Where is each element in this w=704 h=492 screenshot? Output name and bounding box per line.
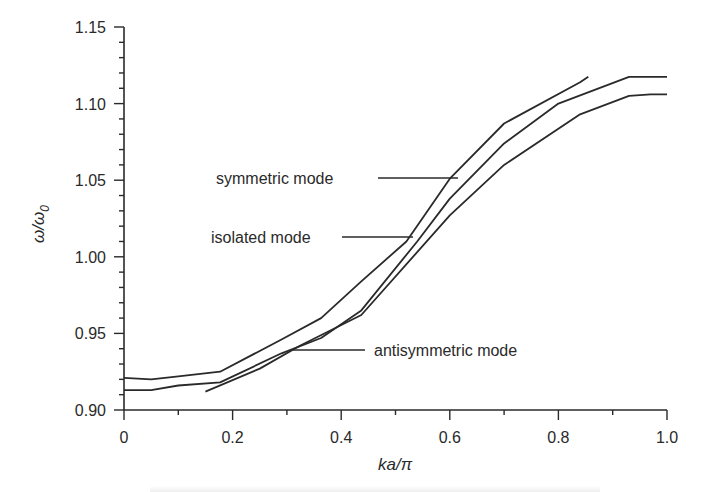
y-tick-label: 0.95 bbox=[75, 325, 106, 342]
y-tick-label: 1.05 bbox=[75, 172, 106, 189]
x-tick-label: 0.8 bbox=[547, 429, 569, 446]
x-tick-label: 0 bbox=[120, 429, 129, 446]
x-tick-label: 0.6 bbox=[439, 429, 461, 446]
y-tick-label: 1.10 bbox=[75, 96, 106, 113]
isolated-mode-label: isolated mode bbox=[211, 229, 311, 246]
y-tick-label: 1.00 bbox=[75, 249, 106, 266]
x-tick-label: 0.4 bbox=[330, 429, 352, 446]
symmetric-mode-label: symmetric mode bbox=[216, 170, 333, 187]
y-tick-label: 0.90 bbox=[75, 402, 106, 419]
x-axis-title: ka/π bbox=[378, 455, 413, 474]
symmetric-mode-curve bbox=[124, 77, 588, 380]
x-tick-label: 1.0 bbox=[656, 429, 678, 446]
axes: 0.900.951.001.051.101.1500.20.40.60.81.0 bbox=[75, 19, 678, 446]
annotations: symmetric modeisolated modeantisymmetric… bbox=[211, 170, 517, 359]
dispersion-chart: 0.900.951.001.051.101.1500.20.40.60.81.0… bbox=[0, 0, 704, 492]
x-tick-label: 0.2 bbox=[221, 429, 243, 446]
y-axis-title: ω/ω0 bbox=[29, 205, 52, 243]
y-tick-label: 1.15 bbox=[75, 19, 106, 36]
antisymmetric-mode-label: antisymmetric mode bbox=[374, 342, 517, 359]
figure-caption-cutoff bbox=[150, 486, 600, 492]
